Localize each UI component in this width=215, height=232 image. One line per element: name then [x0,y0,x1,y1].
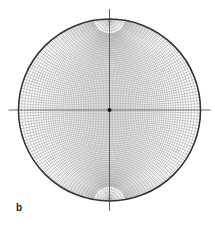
center-point [108,108,112,112]
panel-label: b [16,202,22,213]
stereonet [0,0,215,232]
